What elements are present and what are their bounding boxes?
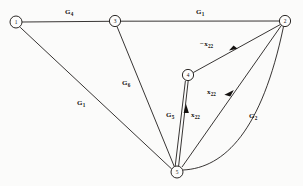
edge-label-g1-left-sub: 1 xyxy=(83,102,86,108)
signal-flow-graph: 1 3 2 4 5 xyxy=(0,0,303,186)
edge-1-to-3 xyxy=(22,21,109,22)
edge-label-g4-sub: 4 xyxy=(71,11,74,17)
edge-label-g5: G5 xyxy=(166,112,174,121)
edge-1-to-5 xyxy=(20,27,171,169)
edge-label-g1-top: G1 xyxy=(196,9,204,18)
node-4-label: 4 xyxy=(187,72,190,78)
edge-label-x22-mid: x22 xyxy=(191,112,200,121)
node-4: 4 xyxy=(182,69,193,80)
edge-label-minus-x22: −x22 xyxy=(200,41,213,50)
edge-label-x22-right: x22 xyxy=(207,89,216,98)
edge-label-g6-sub: 6 xyxy=(128,82,131,88)
node-5: 5 xyxy=(171,166,183,178)
edge-label-g1-top-sub: 1 xyxy=(202,11,205,17)
node-3-label: 3 xyxy=(114,18,117,24)
edge-label-g6: G6 xyxy=(122,80,130,89)
edge-label-minus-x22-sub: 22 xyxy=(208,43,213,49)
node-1-label: 1 xyxy=(15,19,18,25)
edge-label-g1-left: G1 xyxy=(77,100,85,109)
edge-5-to-2-x22 xyxy=(182,25,281,167)
node-3: 3 xyxy=(109,15,120,26)
node-2-label: 2 xyxy=(284,18,287,24)
edge-label-g5-sub: 5 xyxy=(172,114,175,120)
edge-label-x22-right-sub: 22 xyxy=(211,91,216,97)
edge-label-x22-mid-sub: 22 xyxy=(195,114,200,120)
figure-canvas: 1 3 2 4 5 G4 G1 −x22 G6 G1 x22 xyxy=(0,0,303,186)
node-5-label: 5 xyxy=(176,169,179,175)
arrowhead-5-to-4 xyxy=(184,104,189,113)
edge-label-g4: G4 xyxy=(65,9,73,18)
edge-label-g2: G2 xyxy=(249,113,257,122)
arrowhead-4-to-2 xyxy=(229,46,238,51)
node-2: 2 xyxy=(279,15,290,26)
node-1: 1 xyxy=(10,16,22,28)
edge-label-g2-sub: 2 xyxy=(255,115,258,121)
edge-3-to-5 xyxy=(117,27,174,167)
